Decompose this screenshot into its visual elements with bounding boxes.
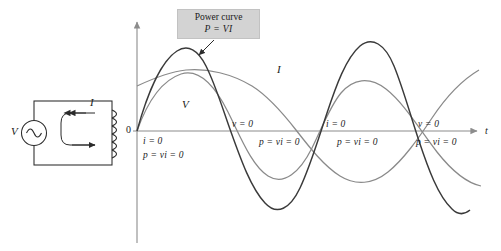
current-curve-label: I — [277, 64, 281, 75]
annotation-second-i-zero: i = 0 — [326, 120, 346, 130]
time-axis-label: t — [485, 126, 488, 136]
power-curve-label-line2: P = VI — [204, 24, 232, 36]
annotation-origin-p-zero: p = vi = 0 — [143, 151, 184, 161]
annotation-second-p-zero: p = vi = 0 — [337, 138, 378, 148]
power-curve-label-line1: Power curve — [195, 12, 243, 24]
voltage-curve-label: V — [182, 99, 189, 110]
annotation-first-v-zero: v = 0 — [232, 120, 253, 130]
graph-axes — [133, 22, 477, 243]
origin-label: 0 — [126, 125, 131, 135]
annotation-third-v-zero: v = 0 — [418, 120, 439, 130]
circuit-schematic — [22, 101, 117, 165]
figure-canvas: Power curve P = VI 0 t V I i = 0 p = vi … — [0, 0, 501, 251]
current-direction-arrows — [61, 113, 95, 145]
circuit-current-label: I — [90, 97, 94, 108]
annotation-first-p-zero: p = vi = 0 — [259, 138, 300, 148]
source-voltage-label: V — [11, 126, 18, 137]
power-curve-pointer-arrow — [199, 40, 214, 55]
annotation-origin-i-zero: i = 0 — [143, 137, 163, 147]
annotation-third-p-zero: p = vi = 0 — [416, 138, 457, 148]
inductor-coil — [112, 110, 117, 158]
power-curve-label-box: Power curve P = VI — [177, 9, 260, 39]
